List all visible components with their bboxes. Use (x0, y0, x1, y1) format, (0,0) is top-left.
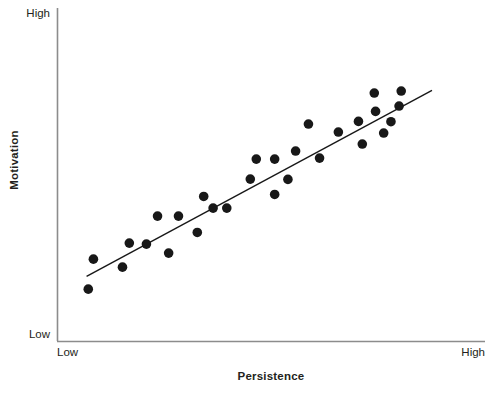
data-point (291, 146, 301, 156)
data-point (83, 284, 93, 294)
data-point (142, 239, 152, 249)
y-axis-title: Motivation (8, 110, 20, 210)
data-point (118, 262, 128, 272)
data-point (371, 107, 381, 117)
data-point (358, 139, 368, 149)
data-point (304, 119, 314, 129)
data-point (270, 154, 280, 164)
x-axis-title: Persistence (57, 370, 485, 382)
scatter-plot-figure: High Low Low High Persistence Motivation (0, 0, 501, 393)
trendline-segment (87, 90, 432, 276)
data-point (164, 248, 174, 258)
data-point (125, 238, 135, 248)
y-axis-tick-high: High (0, 8, 50, 20)
data-point (89, 254, 99, 264)
data-point (283, 175, 293, 185)
data-point (379, 128, 389, 138)
data-point (386, 117, 396, 127)
data-point (251, 154, 261, 164)
data-point (199, 192, 209, 202)
data-point (394, 101, 404, 111)
data-point (208, 203, 218, 213)
data-point (270, 190, 280, 200)
data-points-group (83, 86, 406, 294)
data-point (315, 153, 325, 163)
data-point (354, 117, 364, 127)
data-point (174, 211, 184, 221)
plot-canvas (0, 0, 501, 393)
x-axis-tick-high: High (395, 347, 485, 359)
data-point (222, 203, 232, 213)
data-point (153, 211, 163, 221)
axes-group (57, 8, 485, 342)
data-point (192, 228, 202, 238)
data-point (246, 174, 256, 184)
trendline (87, 90, 432, 276)
y-axis-tick-low: Low (0, 329, 50, 341)
x-axis-tick-low: Low (57, 347, 78, 359)
data-point (396, 86, 406, 96)
data-point (334, 127, 344, 137)
data-point (369, 88, 379, 98)
